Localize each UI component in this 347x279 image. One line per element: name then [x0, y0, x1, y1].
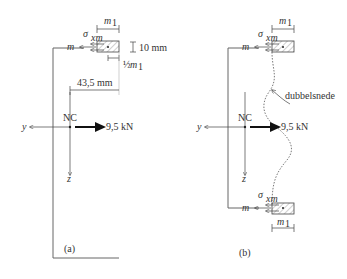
thickness-label: 10 mm: [139, 42, 167, 53]
force-label: 9,5 kN: [106, 121, 133, 132]
half-width-subscript: 1: [138, 61, 143, 72]
width-subscript: 1: [112, 17, 117, 28]
stress-label: σ: [258, 28, 264, 39]
m-label: m: [67, 41, 74, 52]
nc-label: NC: [238, 112, 252, 123]
nc-label: NC: [63, 112, 77, 123]
width-label: m: [279, 15, 286, 26]
stress-label: σ: [83, 28, 89, 39]
panel-a: m σ xm m 1 10 mm ½ m 1 43,5 mm y: [21, 15, 167, 258]
bottom-m-label: m: [242, 202, 249, 213]
bottom-stress-label: σ: [258, 189, 264, 200]
width-label: m: [104, 15, 111, 26]
force-label: 9,5 kN: [281, 121, 308, 132]
m-label: m: [242, 41, 249, 52]
y-axis-label: y: [196, 121, 202, 132]
stress-subscript: xm: [265, 32, 278, 43]
z-axis-label: z: [66, 173, 71, 184]
stress-subscript: xm: [90, 32, 103, 43]
distance-label: 43,5 mm: [77, 77, 113, 88]
panel-b: m σ xm m 1 dubbelsnede y z NC 9,5 kN m: [196, 15, 336, 259]
panel-a-caption: (a): [64, 243, 75, 255]
double-cut-label: dubbelsnede: [285, 90, 336, 101]
width-subscript: 1: [287, 17, 292, 28]
z-axis-label: z: [241, 173, 246, 184]
bottom-stress-subscript: xm: [265, 193, 278, 204]
cross-section-diagram: m σ xm m 1 10 mm ½ m 1 43,5 mm y: [0, 0, 347, 279]
y-axis-label: y: [21, 121, 27, 132]
half-width-symbol: m: [130, 59, 137, 70]
panel-b-caption: (b): [239, 247, 251, 259]
bottom-width-label: m: [277, 216, 284, 227]
bottom-width-subscript: 1: [285, 218, 290, 229]
